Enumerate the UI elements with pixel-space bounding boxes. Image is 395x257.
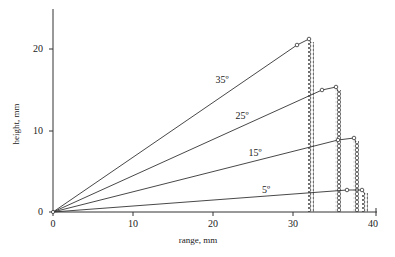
chain-5 bbox=[362, 193, 368, 212]
x-tick-10: 10 bbox=[128, 218, 138, 229]
chain-35 bbox=[308, 42, 314, 212]
label-5: 5º bbox=[262, 184, 270, 195]
series-5: 5º bbox=[53, 184, 368, 212]
y-ticks: 0 10 20 bbox=[33, 43, 53, 217]
y-tick-20: 20 bbox=[33, 43, 43, 54]
x-tick-30: 30 bbox=[288, 218, 298, 229]
label-15: 15º bbox=[248, 147, 261, 158]
x-ticks: 0 10 20 30 40 bbox=[51, 208, 379, 229]
chain-25 bbox=[335, 90, 341, 212]
series-35: 35º bbox=[53, 37, 314, 212]
y-axis-label: height, mm bbox=[11, 104, 21, 145]
x-tick-20: 20 bbox=[208, 218, 218, 229]
label-25: 25º bbox=[235, 110, 248, 121]
trajectory-chart: 0 10 20 0 10 20 30 40 range, mm height, … bbox=[0, 0, 395, 257]
y-tick-0: 0 bbox=[38, 206, 43, 217]
label-35: 35º bbox=[215, 74, 228, 85]
series-25: 25º bbox=[53, 85, 341, 212]
x-tick-40: 40 bbox=[368, 218, 378, 229]
origin-marker bbox=[51, 210, 54, 213]
x-axis-label: range, mm bbox=[179, 235, 218, 245]
chain-15 bbox=[353, 141, 359, 212]
y-tick-10: 10 bbox=[33, 125, 43, 136]
x-tick-0: 0 bbox=[51, 218, 56, 229]
